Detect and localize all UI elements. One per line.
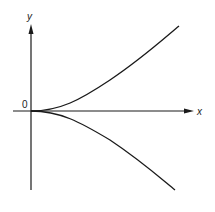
diagram-canvas: y x 0	[0, 0, 215, 212]
y-axis-label: y	[26, 11, 33, 22]
y-axis-arrow-icon	[29, 24, 34, 34]
x-axis-label: x	[196, 106, 203, 117]
x-axis-arrow-icon	[184, 109, 194, 114]
curve-lower-branch	[31, 111, 175, 190]
curve-upper-branch	[31, 26, 179, 111]
origin-label: 0	[22, 99, 28, 110]
